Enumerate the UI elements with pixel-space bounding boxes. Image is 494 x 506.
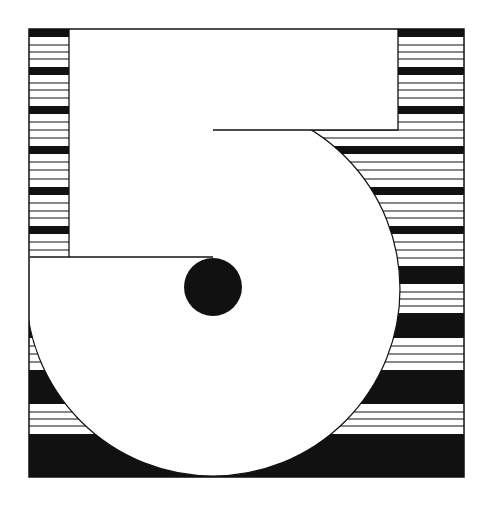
numeral-five-artwork — [0, 0, 494, 506]
counter-dot — [184, 258, 242, 316]
